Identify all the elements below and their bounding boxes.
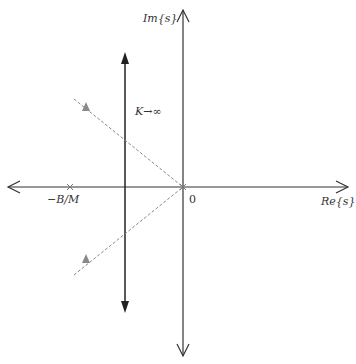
gain-annotation: K→∞ (135, 106, 162, 117)
origin-label: 0 (189, 194, 196, 205)
imag-axis-label: Im{s} (143, 13, 177, 24)
root-locus-branch (121, 52, 129, 313)
imaginary-axis (177, 10, 189, 356)
root-locus-diagram (0, 0, 356, 364)
real-axis-label: Re{s} (321, 196, 355, 207)
pole-left-label: −B/M (47, 194, 79, 205)
branch-arrow-up-icon (121, 52, 129, 64)
branch-arrow-down-icon (121, 301, 129, 313)
lower-triangle-marker (82, 254, 90, 263)
real-axis (8, 181, 348, 193)
